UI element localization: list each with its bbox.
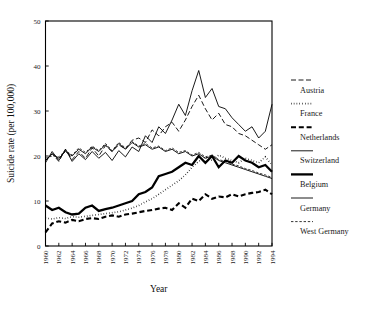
x-tick-label: 1974 [135, 250, 143, 265]
legend-label-switzerland: Switzerland [300, 156, 339, 165]
x-tick-label: 1994 [269, 250, 277, 265]
x-tick-label: 1970 [109, 250, 117, 265]
legend-label-austria: Austria [300, 86, 324, 95]
series-line-germany [46, 143, 273, 179]
legend-label-netherlands: Netherlands [300, 133, 340, 142]
x-tick-label: 1990 [242, 250, 250, 265]
x-tick-label: 1980 [175, 250, 183, 265]
x-tick-label: 1976 [149, 250, 157, 265]
y-axis-title: Suicide rate (per 100,000) [6, 84, 17, 183]
chart-figure: 01020304050 1960196219641966196819701972… [0, 0, 367, 312]
x-axis-title: Year [150, 284, 168, 294]
data-series-group [46, 71, 273, 233]
y-tick-label: 0 [37, 243, 41, 251]
x-tick-label: 1962 [55, 250, 63, 265]
y-tick-label: 50 [34, 18, 42, 26]
x-tick-label: 1972 [122, 250, 130, 265]
series-line-netherlands [46, 190, 273, 233]
x-tick-label: 1978 [162, 250, 170, 265]
x-tick-label: 1988 [229, 250, 237, 265]
y-tick-label: 20 [34, 153, 42, 161]
series-line-austria [46, 95, 273, 161]
legend-label-france: France [300, 109, 323, 118]
series-line-switzerland [46, 71, 273, 163]
suicide-rate-line-chart: 01020304050 1960196219641966196819701972… [0, 0, 367, 312]
y-tick-label: 30 [34, 108, 42, 116]
x-tick-label: 1960 [42, 250, 50, 265]
chart-legend: AustriaFranceNetherlandsSwitzerlandBelgi… [291, 80, 350, 236]
y-tick-label: 10 [34, 198, 42, 206]
x-tick-label: 1982 [189, 250, 197, 265]
x-tick-label: 1992 [255, 250, 263, 265]
x-tick-label: 1966 [82, 250, 90, 265]
y-tick-label: 40 [34, 63, 42, 71]
x-tick-label: 1984 [202, 250, 210, 265]
x-tick-label: 1986 [215, 250, 223, 265]
legend-label-west-germany: West Germany [300, 227, 350, 236]
y-axis-ticks: 01020304050 [34, 18, 49, 251]
x-tick-label: 1964 [69, 250, 77, 265]
legend-label-germany: Germany [300, 204, 331, 213]
x-tick-label: 1968 [95, 250, 103, 265]
series-line-belgium [46, 156, 273, 215]
legend-label-belgium: Belgium [300, 180, 329, 189]
